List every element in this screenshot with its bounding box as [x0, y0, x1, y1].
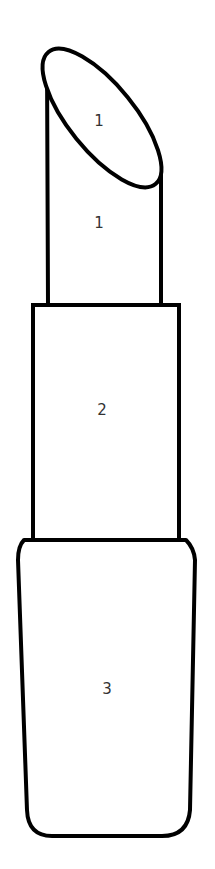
region-label-tip: 1 — [94, 112, 104, 130]
region-label-case: 3 — [102, 680, 112, 698]
region-label-bullet: 1 — [94, 214, 104, 232]
region-label-sleeve: 2 — [97, 401, 107, 419]
sleeve-outline[interactable] — [33, 305, 179, 540]
lipstick-drawing — [0, 0, 215, 869]
